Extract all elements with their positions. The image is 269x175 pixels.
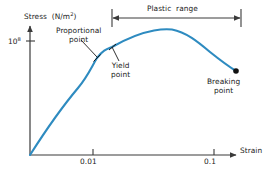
y-axis-title: Stress (N/m2) — [24, 13, 76, 22]
x-axis-tick-label-01: 0.1 — [204, 158, 216, 167]
proportional-point-marker — [94, 55, 101, 62]
plastic-range-label: Plastic range — [147, 5, 198, 14]
x-axis-title: Strain — [240, 147, 262, 156]
y-axis-title-text: Stress (N/m — [24, 12, 70, 21]
stress-strain-figure: Stress (N/m2) 108 Plastic range Proporti… — [0, 0, 269, 175]
breaking-point-label-line2: point — [214, 86, 233, 95]
stress-strain-curve — [30, 29, 236, 155]
yield-point-label-line2: point — [111, 70, 130, 79]
y-axis-tick-exponent: 8 — [18, 36, 21, 42]
proportional-point-label: Proportionalpoint — [56, 27, 101, 44]
y-axis-title-suffix: ) — [73, 12, 76, 21]
breaking-point-marker — [233, 68, 239, 74]
y-axis-tick-mantissa: 10 — [8, 37, 18, 46]
x-axis-tick-label-001: 0.01 — [80, 158, 97, 167]
proportional-point-label-line2: point — [69, 35, 88, 44]
breaking-point-label: Breakingpoint — [207, 78, 240, 95]
yield-point-label: Yieldpoint — [111, 62, 130, 79]
yield-point-leader — [112, 47, 119, 61]
y-axis-tick-label-1e8: 108 — [8, 38, 21, 47]
